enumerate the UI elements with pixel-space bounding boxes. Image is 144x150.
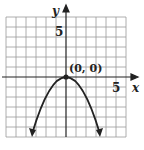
x-axis-label: x: [131, 81, 140, 95]
y-tick-label: 5: [55, 25, 63, 39]
curve-right-arrow-icon: [96, 128, 103, 137]
vertex-label: (0, 0): [69, 62, 102, 75]
vertex-point: [63, 74, 68, 79]
x-tick-label: 5: [112, 81, 120, 95]
y-axis-label: y: [51, 4, 60, 18]
y-axis-arrow-icon: [63, 5, 69, 12]
parabola-graph: y 5 5 x (0, 0): [0, 0, 144, 150]
x-axis-arrow-icon: [131, 74, 138, 80]
curve-left-arrow-icon: [29, 128, 36, 137]
